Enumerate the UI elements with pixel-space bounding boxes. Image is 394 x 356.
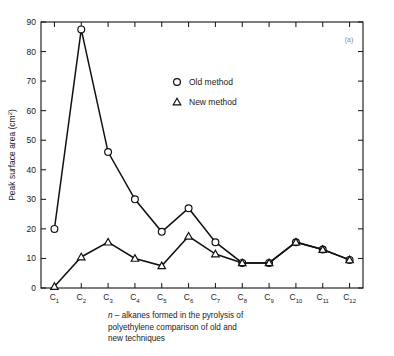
- y-axis-title-base: Peak surface area (cm: [7, 115, 17, 201]
- chart-legend: Old methodNew method: [173, 77, 237, 107]
- legend-label: Old method: [189, 77, 233, 87]
- figure-caption: n – alkanes formed in the pyrolysis of p…: [108, 310, 338, 345]
- series-new-method: [51, 233, 354, 290]
- chart-svg: 0102030405060708090 C1C2C3C4C5C6C7C8C9C1…: [0, 0, 394, 356]
- series-old-method: [51, 26, 353, 266]
- x-tick-label: C4: [130, 292, 140, 304]
- x-tick-label: C3: [103, 292, 113, 304]
- data-point: [104, 238, 112, 245]
- x-tick-label: C8: [238, 292, 248, 304]
- x-tick-label: C2: [77, 292, 87, 304]
- x-tick-label: C11: [317, 292, 330, 304]
- legend-marker: [174, 79, 181, 86]
- caption-line-3: new techniques: [108, 333, 338, 345]
- x-axis-tick-labels: C1C2C3C4C5C6C7C8C9C10C11C12: [50, 292, 357, 304]
- y-tick-label: 60: [27, 106, 37, 116]
- y-tick-label: 20: [27, 224, 37, 234]
- top-axis-ticks: [54, 22, 349, 27]
- right-axis-ticks: [358, 22, 363, 288]
- data-point: [132, 196, 139, 203]
- y-tick-label: 80: [27, 47, 37, 57]
- x-tick-label: C1: [50, 292, 60, 304]
- y-tick-label: 10: [27, 253, 37, 263]
- x-tick-label: C12: [343, 292, 356, 304]
- y-tick-label: 40: [27, 165, 37, 175]
- legend-marker: [173, 98, 181, 105]
- y-tick-label: 70: [27, 76, 37, 86]
- x-tick-label: C7: [211, 292, 221, 304]
- caption-line-1: n – alkanes formed in the pyrolysis of: [108, 310, 338, 322]
- y-axis-title: Peak surface area (cm2): [7, 109, 17, 201]
- x-tick-label: C6: [184, 292, 194, 304]
- data-point: [78, 253, 86, 260]
- y-axis-title-close: ): [7, 109, 17, 112]
- y-axis-ticks: [41, 22, 46, 288]
- y-tick-label: 90: [27, 17, 37, 27]
- y-tick-label: 50: [27, 135, 37, 145]
- series-line-1: [54, 236, 349, 286]
- figure-container: 0102030405060708090 C1C2C3C4C5C6C7C8C9C1…: [0, 0, 394, 356]
- x-axis-ticks: [54, 283, 349, 288]
- x-tick-label: C10: [290, 292, 303, 304]
- caption-line-2: polyethylene comparison of old and: [108, 322, 338, 334]
- data-point: [212, 239, 219, 246]
- x-tick-label: C9: [264, 292, 274, 304]
- data-point: [212, 250, 220, 257]
- y-tick-label: 0: [31, 283, 36, 293]
- data-point: [51, 225, 58, 232]
- data-series-layer: [51, 26, 354, 289]
- data-point: [78, 26, 85, 33]
- y-axis-tick-labels: 0102030405060708090: [27, 17, 37, 293]
- series-line-0: [54, 29, 349, 262]
- panel-label: (a): [345, 36, 354, 44]
- data-point: [185, 233, 193, 240]
- caption-line-1-text: – alkanes formed in the pyrolysis of: [113, 311, 244, 320]
- x-tick-label: C5: [157, 292, 167, 304]
- data-point: [185, 205, 192, 212]
- data-point: [131, 255, 139, 262]
- y-tick-label: 30: [27, 194, 37, 204]
- data-point: [158, 228, 165, 235]
- legend-label: New method: [189, 97, 237, 107]
- data-point: [105, 149, 112, 156]
